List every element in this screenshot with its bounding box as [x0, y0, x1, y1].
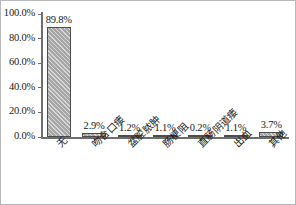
y-axis-tick-label: 20.0% — [9, 105, 35, 116]
bar-value-label: 89.8% — [46, 14, 72, 25]
plot-area: 89.8%2.9%1.2%1.1%0.2%1.1%3.7% — [41, 14, 289, 137]
y-axis-tick-label: 60.0% — [9, 56, 35, 67]
y-axis-tick-label: 100.0% — [4, 7, 35, 18]
bar[interactable] — [47, 27, 71, 137]
bar-slot: 0.2% — [183, 14, 218, 137]
bar-slot: 3.7% — [254, 14, 289, 137]
y-axis-tick-label: 0.0% — [14, 130, 35, 141]
y-axis-tick-label: 40.0% — [9, 81, 35, 92]
chart-figure: 0.0%20.0%40.0%60.0%80.0%100.0% 89.8%2.9%… — [0, 0, 296, 205]
y-axis-tick-label: 80.0% — [9, 32, 35, 43]
bar-slot: 2.9% — [76, 14, 111, 137]
bar-slot: 89.8% — [41, 14, 76, 137]
